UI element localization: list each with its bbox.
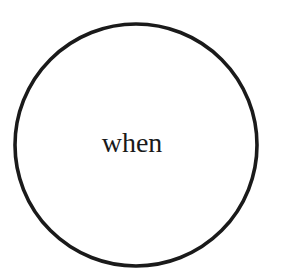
- circle-node-when[interactable]: [15, 24, 257, 266]
- diagram-canvas: when: [0, 0, 281, 276]
- circle-shape-layer: [0, 0, 281, 276]
